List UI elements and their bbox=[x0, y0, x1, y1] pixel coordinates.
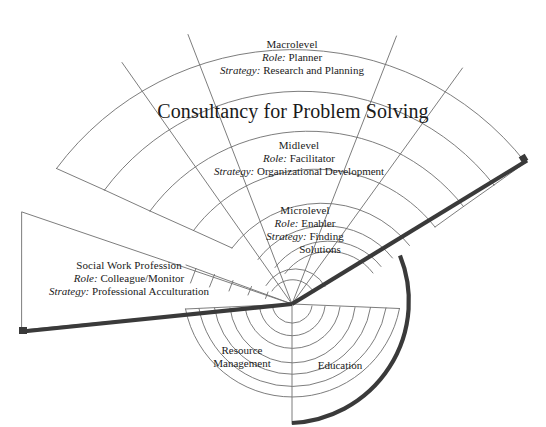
spoke-upper-left-3 bbox=[194, 231, 233, 249]
spoke-upper-left-2 bbox=[150, 211, 194, 231]
macrolevel-role: Role: Planner bbox=[186, 51, 398, 64]
lower-right-spoke-a bbox=[292, 304, 400, 309]
midlevel-strategy: Strategy: Organizational Development bbox=[186, 165, 412, 178]
arc-inner-2 bbox=[272, 280, 314, 292]
resource-management-line1: Resource bbox=[199, 344, 285, 357]
lower-arc-3 bbox=[245, 307, 340, 348]
microlevel-heading: Microlevel bbox=[232, 204, 378, 217]
macrolevel-heading: Macrolevel bbox=[186, 38, 398, 51]
bottom-label-education: Education bbox=[300, 359, 380, 372]
macrolevel-strategy: Strategy: Research and Planning bbox=[186, 64, 398, 77]
bold-edge-lower-left bbox=[23, 304, 293, 332]
midlevel-heading: Midlevel bbox=[186, 139, 412, 152]
resource-management-line2: Management bbox=[199, 357, 285, 370]
social-work-strategy: Strategy: Professional Acculturation bbox=[23, 285, 235, 298]
tier-label-microlevel: Microlevel Role: Enabler Strategy: Findi… bbox=[232, 204, 378, 256]
spoke-upper-left-1 bbox=[105, 190, 151, 211]
page-title: Consultancy for Problem Solving bbox=[113, 100, 473, 124]
midlevel-role: Role: Facilitator bbox=[186, 152, 412, 165]
bold-cap-left bbox=[19, 327, 27, 334]
education-line1: Education bbox=[300, 359, 380, 372]
bold-arc-lower-right bbox=[292, 256, 409, 424]
bottom-label-resource-management: Resource Management bbox=[199, 344, 285, 370]
spoke-upper-left-outer bbox=[57, 169, 105, 191]
tier-label-social-work-profession: Social Work Profession Role: Colleague/M… bbox=[23, 259, 235, 298]
tier-label-midlevel: Midlevel Role: Facilitator Strategy: Org… bbox=[186, 139, 412, 178]
microlevel-strategy: Strategy: Finding bbox=[232, 230, 378, 243]
microlevel-role: Role: Enabler bbox=[232, 217, 378, 230]
arc-inner-1 bbox=[266, 269, 325, 287]
social-work-role: Role: Colleague/Monitor bbox=[23, 272, 235, 285]
social-work-heading: Social Work Profession bbox=[23, 259, 235, 272]
diagram-canvas: Macrolevel Role: Planner Strategy: Resea… bbox=[0, 0, 546, 427]
tier-label-macrolevel: Macrolevel Role: Planner Strategy: Resea… bbox=[186, 38, 398, 77]
microlevel-strategy-line2: Solutions bbox=[262, 243, 378, 256]
title-text: Consultancy for Problem Solving bbox=[113, 100, 473, 124]
